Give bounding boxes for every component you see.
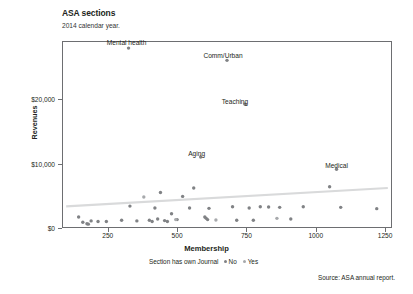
data-point: [259, 205, 262, 208]
y-tick-mark: [58, 228, 62, 229]
legend-dot-icon: [243, 260, 246, 263]
plot-area: [62, 41, 392, 228]
x-tick-label: 500: [172, 232, 183, 239]
figure-subtitle: 2014 calendar year.: [62, 22, 120, 29]
x-tick-label: 250: [102, 232, 113, 239]
scatter-marks: [62, 41, 392, 228]
data-point: [170, 212, 173, 215]
y-tick-mark: [58, 164, 62, 165]
data-point: [267, 205, 270, 208]
x-tick-mark: [177, 228, 178, 232]
legend-dot-icon: [224, 260, 227, 263]
legend-items: NoYes: [224, 258, 265, 265]
data-point: [192, 186, 195, 189]
data-point: [275, 217, 278, 220]
x-tick-label: 1000: [308, 232, 323, 239]
data-point: [127, 46, 130, 49]
data-point: [81, 221, 84, 224]
data-point-label: Aging: [188, 150, 205, 157]
data-point: [159, 191, 162, 194]
data-point: [247, 206, 250, 209]
data-point-label: Mental health: [107, 39, 147, 46]
data-point: [206, 218, 209, 221]
data-point: [302, 205, 305, 208]
data-point: [153, 206, 156, 209]
x-tick-mark: [108, 228, 109, 232]
legend-item[interactable]: No: [224, 258, 237, 265]
data-point: [235, 219, 238, 222]
x-tick-mark: [316, 228, 317, 232]
data-point: [375, 207, 378, 210]
y-axis-label: Revenues: [30, 83, 39, 163]
data-point: [278, 206, 281, 209]
source-note: Source: ASA annual report.: [318, 274, 395, 281]
data-point: [328, 185, 331, 188]
figure: ASA sections 2014 calendar year. $0$10,0…: [0, 0, 413, 294]
data-point: [96, 220, 99, 223]
data-point: [188, 206, 191, 209]
legend-item-label: Yes: [248, 258, 258, 265]
x-tick-label: 1250: [378, 232, 393, 239]
data-point: [150, 220, 153, 223]
data-point: [181, 195, 184, 198]
legend: Section has own JournalNoYes: [0, 258, 413, 265]
data-point: [339, 206, 342, 209]
data-point: [252, 219, 255, 222]
data-point: [120, 219, 123, 222]
data-point: [135, 219, 138, 222]
data-point-label: Comm/Urban: [203, 52, 242, 59]
data-point: [77, 215, 80, 218]
legend-item-label: No: [229, 258, 237, 265]
legend-title: Section has own Journal: [149, 258, 219, 265]
data-point: [231, 205, 234, 208]
data-point-label: Teaching: [222, 98, 248, 105]
data-point-label: Medical: [325, 162, 348, 169]
data-point: [166, 220, 169, 223]
y-tick-label: $0: [48, 225, 55, 232]
legend-item[interactable]: Yes: [243, 258, 258, 265]
data-point: [156, 217, 159, 220]
data-point: [289, 217, 292, 220]
x-tick-label: 750: [241, 232, 252, 239]
y-tick-mark: [58, 99, 62, 100]
data-point: [142, 195, 145, 198]
data-point: [214, 218, 217, 221]
x-tick-mark: [385, 228, 386, 232]
trend-line: [66, 188, 388, 206]
data-point: [87, 222, 90, 225]
data-point: [207, 207, 210, 210]
page-title: ASA sections: [62, 8, 115, 18]
x-tick-mark: [246, 228, 247, 232]
data-point: [105, 220, 108, 223]
data-point: [89, 219, 92, 222]
x-axis-label: Membership: [0, 244, 413, 253]
data-point: [174, 218, 177, 221]
data-point: [128, 204, 131, 207]
